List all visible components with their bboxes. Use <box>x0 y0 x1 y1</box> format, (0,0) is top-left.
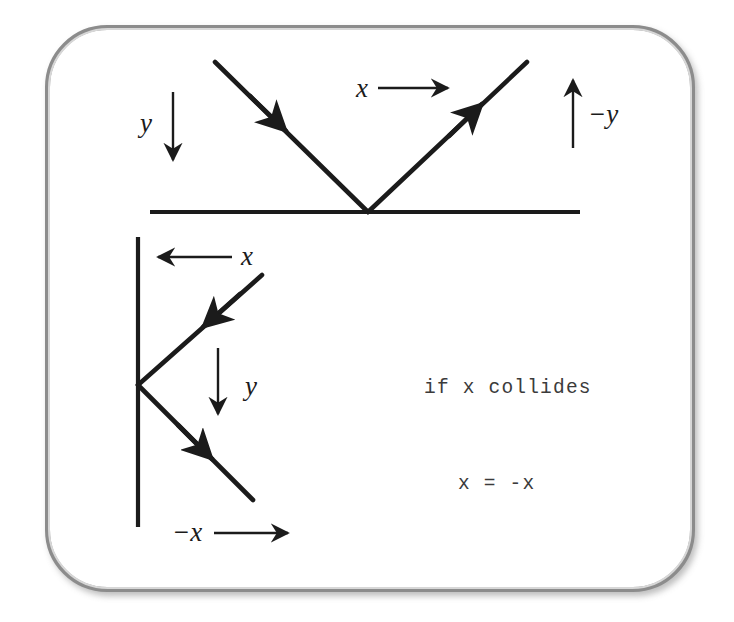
top-label-y: y <box>140 110 152 137</box>
figure-page: y x −y x y −x if x collides x = -x if y … <box>0 0 734 622</box>
bottom-diagram-group <box>138 237 288 533</box>
code-line-if-x-collides: if x collides <box>424 372 592 404</box>
code-line-x-assign: x = -x <box>424 468 592 500</box>
top-label-minus-y: −y <box>588 101 618 128</box>
bottom-incoming-ray-arrowhead <box>203 294 240 327</box>
top-incoming-ray-arrowhead <box>250 96 286 131</box>
collision-pseudocode-block: if x collides x = -x if y collides y = -… <box>424 308 592 622</box>
bottom-outgoing-ray-arrowhead <box>178 425 212 459</box>
code-block-spacer <box>424 564 592 586</box>
bottom-label-y: y <box>245 373 257 400</box>
bottom-incoming-ray <box>138 275 262 385</box>
bottom-label-minus-x: −x <box>172 519 202 546</box>
top-incoming-ray <box>215 62 368 212</box>
top-label-x: x <box>356 75 368 102</box>
bottom-label-x: x <box>241 243 253 270</box>
top-outgoing-ray-arrowhead <box>449 104 482 136</box>
